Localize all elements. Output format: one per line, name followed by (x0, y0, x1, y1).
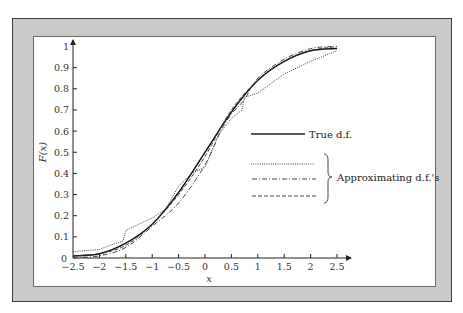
legend: True d.f. Approximating d.f.'s (251, 129, 439, 204)
x-tick-label: −1.5 (114, 261, 137, 272)
x-tick-label: 0.5 (224, 261, 239, 272)
legend-true-label: True d.f. (309, 129, 352, 140)
y-tick-label: 0.7 (54, 104, 69, 115)
x-tick-label: 2 (308, 261, 314, 272)
x-axis-label: x (206, 273, 212, 284)
cdf-chart: −2.5−2−1.5−1−0.500.511.522.5 00.10.20.30… (0, 0, 463, 313)
series-solid (73, 49, 337, 256)
x-tick-label: −1 (145, 261, 159, 272)
y-tick-label: 0.3 (54, 189, 69, 200)
series-dash-dot (73, 47, 332, 259)
x-tick-label: 2.5 (329, 261, 344, 272)
y-axis-label: F(x) (37, 142, 48, 163)
legend-approx-label: Approximating d.f.'s (336, 172, 439, 183)
x-tick-label: 1 (255, 261, 261, 272)
legend-brace (324, 154, 332, 203)
axes (73, 40, 351, 258)
y-tick-label: 0 (61, 253, 67, 264)
y-tick-label: 0.6 (54, 126, 69, 137)
x-ticks: −2.5−2−1.5−1−0.500.511.522.5 (61, 254, 344, 272)
y-tick-label: 0.1 (54, 231, 69, 242)
y-tick-label: 0.4 (54, 168, 69, 179)
x-tick-label: 0 (202, 261, 208, 272)
x-tick-label: −2 (92, 261, 106, 272)
data-series (73, 47, 337, 259)
y-tick-label: 1 (63, 41, 69, 52)
y-tick-label: 0.5 (54, 147, 69, 158)
x-tick-label: −0.5 (167, 261, 190, 272)
x-tick-label: 1.5 (277, 261, 292, 272)
y-tick-label: 0.8 (54, 83, 69, 94)
y-tick-label: 0.2 (54, 210, 69, 221)
y-tick-label: 0.9 (54, 62, 69, 73)
y-ticks: 00.10.20.30.40.50.60.70.80.91 (54, 41, 77, 264)
